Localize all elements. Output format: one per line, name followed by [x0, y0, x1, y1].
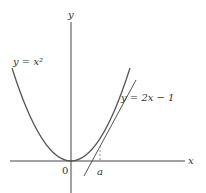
point-a-label: a	[97, 166, 103, 177]
tangent-label: y = 2x − 1	[120, 92, 175, 103]
x-axis-label: x	[188, 155, 194, 166]
parabola-label: y = x²	[12, 56, 43, 67]
y-axis-label: y	[67, 9, 74, 20]
parabola-tangent-diagram: y x 0 a y = x² y = 2x − 1	[0, 0, 206, 193]
origin-label: 0	[62, 165, 68, 176]
